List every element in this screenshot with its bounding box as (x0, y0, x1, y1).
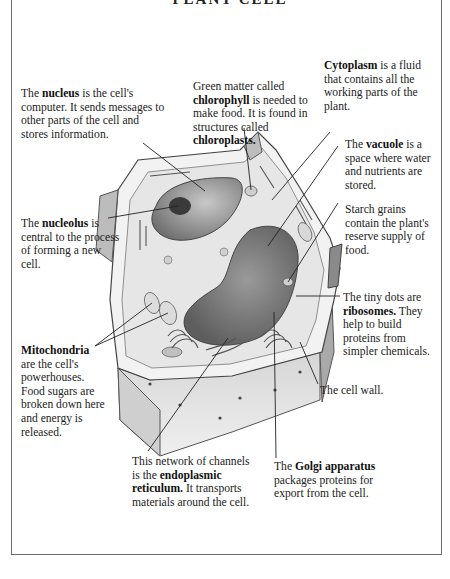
term-ribosomes: ribosomes. (343, 305, 396, 318)
term-cytoplasm: Cytoplasm (324, 59, 377, 72)
term-nucleus: nucleus (42, 87, 79, 100)
nucleolus-shape (169, 197, 191, 215)
term-chlorophyll: chlorophyll (193, 94, 249, 107)
term-nucleolus: nucleolus (42, 217, 88, 230)
label-nucleolus: The nucleolus is central to the process … (21, 217, 121, 271)
term-chloroplasts: chloroplasts. (193, 134, 256, 147)
term-golgi-apparatus: Golgi apparatus (295, 460, 375, 473)
label-vacuole: The vacuole is a space where water and n… (345, 138, 440, 192)
label-golgi-apparatus: The Golgi apparatus packages proteins fo… (274, 460, 394, 501)
label-cytoplasm: Cytoplasm is a fluid that contains all t… (324, 59, 439, 113)
label-chlorophyll: Green matter called chlorophyll is neede… (193, 80, 318, 148)
term-mitochondria: Mitochondria (21, 344, 89, 357)
label-mitochondria: Mitochondria are the cell's powerhouses.… (21, 344, 106, 439)
label-nucleus: The nucleus is the cell's computer. It s… (21, 87, 166, 141)
label-endoplasmic-reticulum: This network of channels is the endoplas… (132, 455, 257, 509)
label-starch-grains: Starch grains contain the plant's reserv… (345, 203, 440, 257)
label-ribosomes: The tiny dots are ribosomes. They help t… (343, 291, 433, 359)
label-cell-wall: The cell wall. (320, 384, 420, 398)
term-vacuole: vacuole (366, 138, 403, 151)
